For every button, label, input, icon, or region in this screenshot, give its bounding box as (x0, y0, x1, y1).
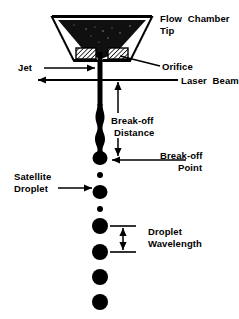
droplet-wavelength-label-line1: Droplet (148, 226, 183, 237)
satellite-droplet-label-line1: Satellite (14, 171, 51, 182)
droplet-main (92, 218, 108, 234)
droplet-main (92, 294, 108, 310)
droplet-main (92, 269, 108, 285)
jet-breakup-diagram: Flow Chamber Tip Orifice Jet Laser Beam … (0, 0, 239, 319)
break-off-distance-label-line2: Distance (114, 127, 154, 138)
diagram-canvas: Flow Chamber Tip Orifice Jet Laser Beam … (0, 0, 239, 319)
droplet-main (93, 185, 108, 199)
flow-chamber-tip-label-line2: Tip (160, 25, 174, 36)
flow-chamber-tip-label-line1: Flow Chamber (160, 13, 230, 24)
droplet-wavelength-label-line2: Wavelength (148, 238, 202, 249)
satellite-droplet-label-line2: Droplet (14, 183, 49, 194)
chamber-top-rim (52, 15, 152, 18)
jet-label: Jet (18, 62, 33, 73)
droplet-satellite (97, 172, 103, 178)
break-off-point-label-line2: Point (178, 162, 203, 173)
laser-beam-label: Laser Beam (181, 75, 239, 86)
droplet-main (92, 244, 108, 260)
droplet-main (93, 151, 108, 165)
orifice-block-left (76, 48, 96, 59)
break-off-point-label-line1: Break-off (160, 150, 203, 161)
break-off-distance-label-line1: Break-off (111, 115, 154, 126)
droplet-satellite (97, 206, 103, 212)
orifice-label: Orifice (162, 61, 193, 72)
